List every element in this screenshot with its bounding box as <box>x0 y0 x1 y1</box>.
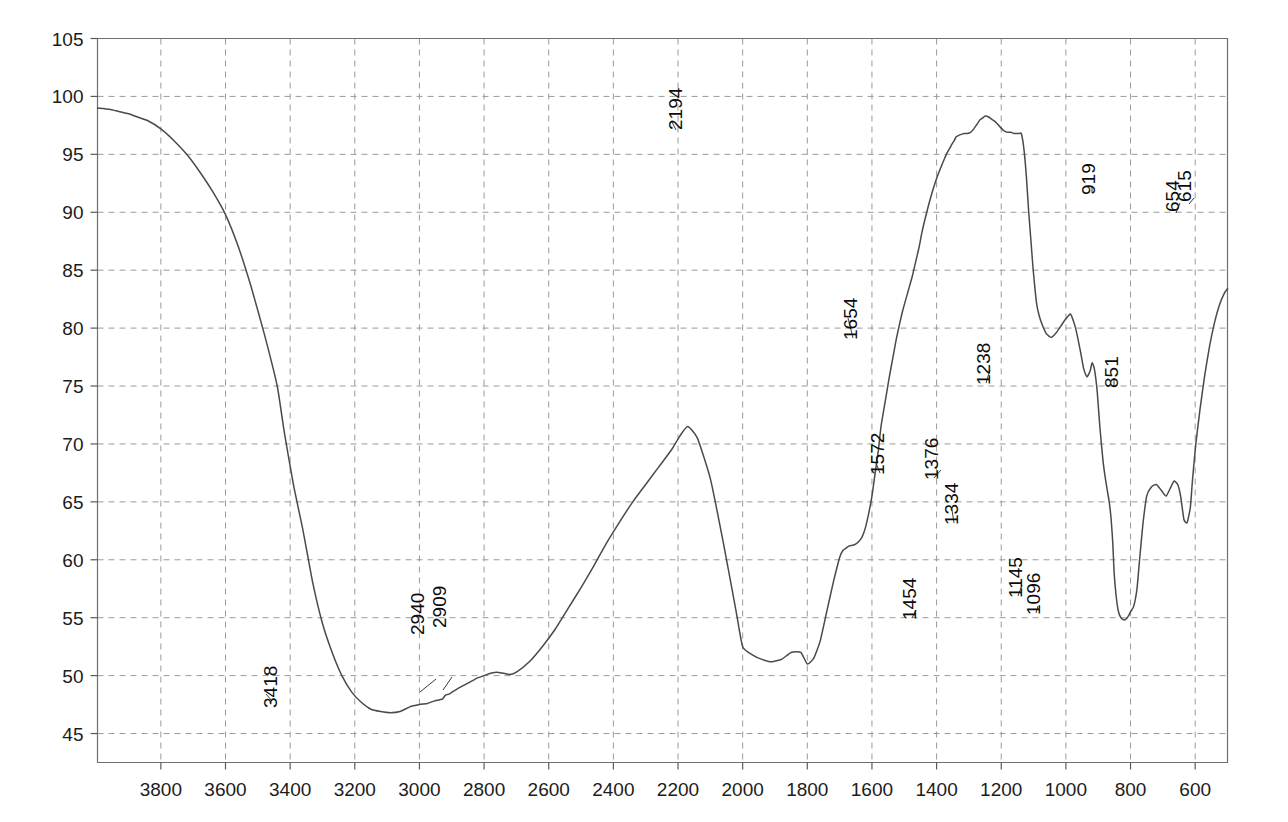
peak-label-1654: 1654 <box>840 297 861 340</box>
y-tick-label: 80 <box>62 318 83 339</box>
x-tick-label: 1400 <box>915 779 957 800</box>
x-tick-label: 3400 <box>269 779 311 800</box>
peak-label-1096: 1096 <box>1023 573 1044 615</box>
y-tick-label: 55 <box>62 608 83 629</box>
peak-label-1334: 1334 <box>941 482 962 525</box>
spectrum-plot: 1051009590858075706560555045 38003600340… <box>0 0 1288 822</box>
x-tick-label: 1000 <box>1045 779 1087 800</box>
peak-label-615: 615 <box>1174 170 1195 202</box>
y-tick-label: 65 <box>62 492 83 513</box>
y-tick-label: 90 <box>62 202 83 223</box>
peak-label-1238: 1238 <box>973 343 994 385</box>
peak-label-1376: 1376 <box>921 438 942 480</box>
y-tick-label: 75 <box>62 376 83 397</box>
peak-label-1572: 1572 <box>867 433 888 475</box>
x-tick-label: 2400 <box>592 779 634 800</box>
y-tick-label: 100 <box>52 86 84 107</box>
peak-label-851: 851 <box>1101 356 1122 388</box>
peak-label-919: 919 <box>1078 163 1099 195</box>
x-tick-label: 3200 <box>334 779 376 800</box>
x-tick-label: 2200 <box>657 779 699 800</box>
y-tick-label: 60 <box>62 550 83 571</box>
x-tick-label: 3800 <box>140 779 182 800</box>
x-tick-label: 2800 <box>463 779 505 800</box>
y-tick-label: 95 <box>62 144 83 165</box>
x-tick-label: 2000 <box>722 779 764 800</box>
x-tick-label: 3600 <box>204 779 246 800</box>
y-tick-label: 50 <box>62 666 83 687</box>
x-tick-label: 1800 <box>786 779 828 800</box>
y-tick-label: 105 <box>52 29 84 50</box>
x-tick-label: 800 <box>1115 779 1147 800</box>
x-axis-tick-labels: 3800360034003200300028002600240022002000… <box>140 779 1211 800</box>
x-tick-label: 2600 <box>528 779 570 800</box>
peak-label-2909: 2909 <box>429 586 450 628</box>
y-tick-label: 70 <box>62 434 83 455</box>
peak-label-1454: 1454 <box>899 577 920 620</box>
y-tick-label: 45 <box>62 724 83 745</box>
x-tick-label: 1600 <box>851 779 893 800</box>
chart-background <box>0 0 1288 822</box>
peak-label-3418: 3418 <box>260 666 281 708</box>
x-tick-label: 3000 <box>398 779 440 800</box>
peak-label-2940: 2940 <box>407 593 428 635</box>
x-tick-label: 600 <box>1179 779 1211 800</box>
x-tick-label: 1200 <box>980 779 1022 800</box>
y-tick-label: 85 <box>62 260 83 281</box>
ftir-spectrum-chart: 1051009590858075706560555045 38003600340… <box>0 0 1288 822</box>
peak-label-2194: 2194 <box>665 87 686 130</box>
